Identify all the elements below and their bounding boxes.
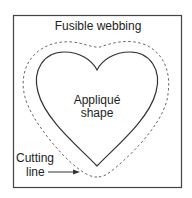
label-cutting: Cutting xyxy=(16,152,60,165)
title-fusible-webbing: Fusible webbing xyxy=(52,20,144,33)
label-shape: shape xyxy=(67,107,127,120)
label-line: line xyxy=(26,166,48,179)
arrowhead-icon xyxy=(73,170,80,175)
